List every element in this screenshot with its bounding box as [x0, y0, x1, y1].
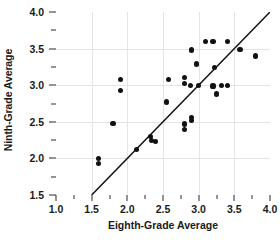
data-point [189, 118, 194, 123]
x-axis-tick-mark [234, 195, 235, 201]
x-axis-tick-label: 3.5 [227, 203, 242, 215]
x-axis-tick-label: 2.0 [120, 203, 135, 215]
x-axis-tick-label: 4.0 [263, 203, 278, 215]
data-point [189, 47, 194, 52]
x-axis-tick-mark [145, 195, 146, 199]
data-point [210, 39, 215, 44]
data-point [110, 121, 115, 126]
plot-area [56, 12, 270, 195]
x-axis-tick-mark [56, 195, 57, 201]
data-point [194, 61, 199, 66]
reference-line [56, 12, 270, 195]
x-axis-tick-mark [127, 195, 128, 201]
x-axis-tick-mark [198, 195, 199, 201]
data-point [225, 39, 230, 44]
x-axis-tick-label: 1.0 [49, 203, 64, 215]
x-axis-tick-marks [56, 195, 270, 203]
data-point [219, 83, 224, 88]
y-axis-tick-mark [49, 85, 56, 86]
data-point [118, 77, 123, 82]
x-axis-tick-mark [109, 195, 110, 199]
x-axis-tick-mark [180, 195, 181, 199]
y-axis-title-text: Ninth-Grade Average [2, 49, 14, 151]
data-point [182, 121, 187, 126]
y-axis-tick-label: 1.5 [29, 189, 44, 201]
data-point [237, 47, 242, 52]
x-axis-tick-label: 3.0 [191, 203, 206, 215]
y-axis-tick-marks [46, 0, 56, 200]
data-point [118, 88, 123, 93]
y-axis-tick-label: 2.5 [29, 116, 44, 128]
x-axis-tick-label: 2.5 [156, 203, 171, 215]
x-axis-tick-mark [252, 195, 253, 199]
y-axis-tick-label: 4.0 [29, 6, 44, 18]
x-axis-tick-mark [216, 195, 217, 199]
y-axis-tick-label: 3.0 [29, 79, 44, 91]
x-axis-title: Eighth-Grade Average [56, 219, 270, 231]
y-axis-tick-mark [49, 12, 56, 13]
data-point [164, 99, 169, 104]
data-point [188, 83, 193, 88]
y-axis-tick-mark [49, 121, 56, 122]
scatter-plot: Ninth-Grade Average 1.52.02.53.03.54.0 1… [0, 0, 280, 242]
data-point [196, 83, 201, 88]
x-axis-tick-mark [270, 195, 271, 201]
y-axis-tick-labels: 1.52.02.53.03.54.0 [14, 0, 46, 200]
y-axis-tick-label: 2.0 [29, 152, 44, 164]
data-point [225, 83, 230, 88]
x-axis-tick-mark [91, 195, 92, 201]
data-point [214, 91, 219, 96]
x-axis-tick-mark [73, 195, 74, 199]
x-axis-tick-label: 1.5 [84, 203, 99, 215]
x-axis-tick-mark [163, 195, 164, 201]
y-axis-tick-label: 3.5 [29, 43, 44, 55]
data-point [253, 53, 258, 58]
data-point [182, 127, 187, 132]
x-axis-tick-labels: 1.01.52.02.53.03.54.0 [56, 203, 270, 217]
data-point [210, 83, 215, 88]
y-axis-tick-mark [49, 158, 56, 159]
y-axis-tick-mark [49, 48, 56, 49]
